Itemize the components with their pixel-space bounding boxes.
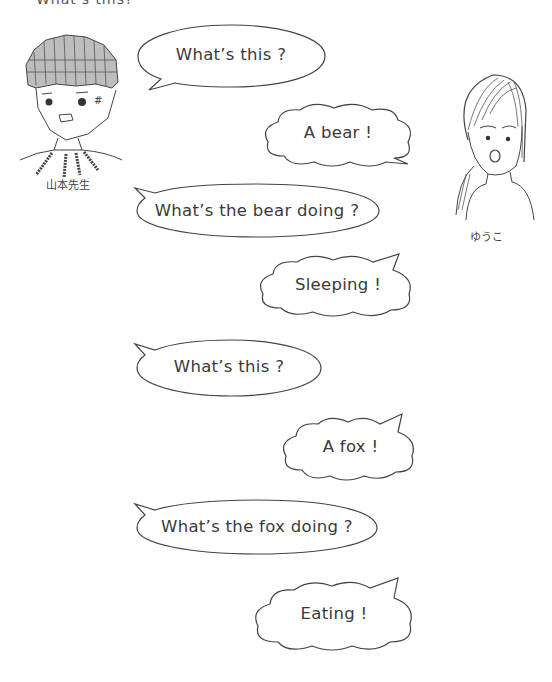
teacher-illustration-icon: # — [16, 30, 126, 180]
bubble-text: Eating ! — [248, 604, 420, 623]
bubble-text: A bear ! — [258, 123, 418, 142]
student-illustration-icon — [438, 70, 538, 220]
bubble-text: A fox ! — [278, 437, 423, 456]
bubble-text: What’s the bear doing ? — [133, 201, 381, 220]
bubble-text: What’s the fox doing ? — [133, 517, 381, 536]
speech-bubble-6: A fox ! — [278, 410, 423, 484]
speech-bubble-4: Sleeping ! — [253, 250, 423, 318]
speech-bubble-7: What’s the fox doing ? — [133, 496, 381, 556]
speech-bubble-2: A bear ! — [258, 100, 418, 168]
speech-bubble-5: What’s this ? — [133, 336, 325, 398]
bubble-text: What’s this ? — [133, 357, 325, 376]
student-figure — [438, 70, 538, 220]
speech-bubble-1: What’s this ? — [135, 23, 327, 91]
svg-text:#: # — [94, 95, 102, 106]
teacher-name-label: 山本先生 — [46, 176, 90, 192]
bubble-text: What’s this ? — [135, 45, 327, 64]
speech-bubble-3: What’s the bear doing ? — [133, 181, 381, 239]
page-heading-partial: What's this? — [36, 0, 133, 7]
speech-bubble-8: Eating ! — [248, 574, 420, 656]
bubble-text: Sleeping ! — [253, 275, 423, 294]
student-name-label: ゆうこ — [470, 228, 503, 244]
teacher-figure: # — [16, 30, 126, 180]
